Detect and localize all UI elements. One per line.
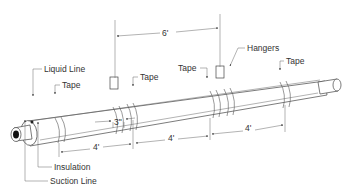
tape-label-2: Tape [140,72,159,82]
tape-label-3: Tape [178,63,197,73]
insulated-pipe [11,79,341,146]
dimension-4ft-1-label: 4' [93,142,100,152]
dimension-4ft-2-label: 4' [168,133,175,143]
tape-label-4: Tape [286,56,305,66]
dimension-3in-label: 3" [114,117,122,127]
dimension-6ft-label: 6' [162,28,169,38]
tape-callouts: Tape Tape Tape Tape [55,56,305,94]
dimension-4ft-3-label: 4' [245,123,252,133]
hangers-label: Hangers [247,43,279,53]
hanger-1-icon [110,77,118,89]
insulation-label: Insulation [54,162,91,172]
suction-line-end-icon [13,131,19,139]
suction-line-label: Suction Line [50,176,97,186]
liquid-line-label: Liquid Line [44,64,85,74]
pipe-insulation-diagram: 6' 3" 4' 4' 4' Liquid Line Tape Tape T [0,0,343,194]
hanger-2-icon [216,66,224,78]
tape-label-1: Tape [62,80,81,90]
hangers-callout: Hangers [230,43,279,66]
dimension-6ft: 6' [115,14,220,78]
diagram-canvas: 6' 3" 4' 4' 4' Liquid Line Tape Tape T [0,0,343,194]
